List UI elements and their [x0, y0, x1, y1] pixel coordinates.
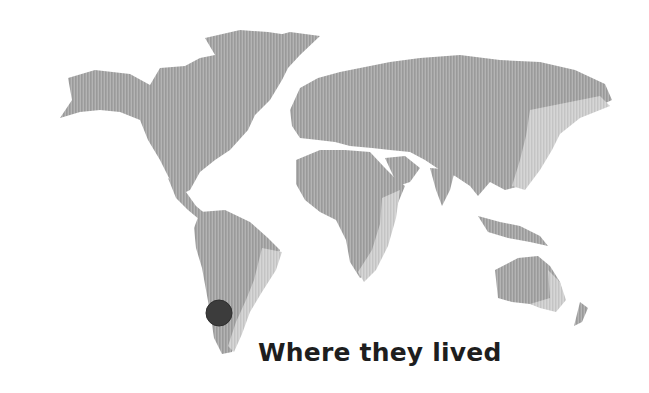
new-zealand	[574, 302, 588, 326]
map-caption: Where they lived	[258, 338, 502, 367]
world-map	[0, 0, 649, 393]
india	[430, 168, 455, 206]
location-marker	[206, 300, 232, 326]
southeast-asia	[478, 216, 548, 246]
